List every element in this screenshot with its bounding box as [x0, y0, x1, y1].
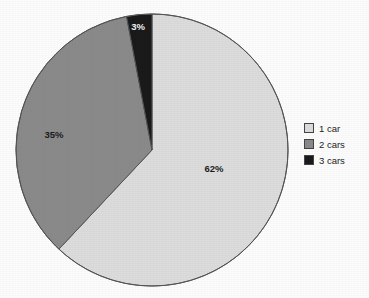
- legend-label: 2 cars: [319, 139, 345, 150]
- legend-label: 1 car: [319, 123, 340, 134]
- pie-label-1-car: 62%: [204, 163, 224, 174]
- pie-chart-figure: 62% 35% 3% 1 car 2 cars 3 cars: [0, 0, 369, 298]
- chart-legend: 1 car 2 cars 3 cars: [304, 120, 366, 168]
- legend-swatch-icon: [304, 139, 314, 149]
- legend-label: 3 cars: [319, 155, 345, 166]
- pie-label-2-cars: 35%: [44, 129, 64, 140]
- pie-slices: [16, 14, 288, 286]
- legend-swatch-icon: [304, 155, 314, 165]
- legend-item-1-car[interactable]: 1 car: [304, 120, 366, 136]
- pie-label-3-cars: 3%: [131, 21, 145, 32]
- legend-item-3-cars[interactable]: 3 cars: [304, 152, 366, 168]
- legend-swatch-icon: [304, 123, 314, 133]
- legend-item-2-cars[interactable]: 2 cars: [304, 136, 366, 152]
